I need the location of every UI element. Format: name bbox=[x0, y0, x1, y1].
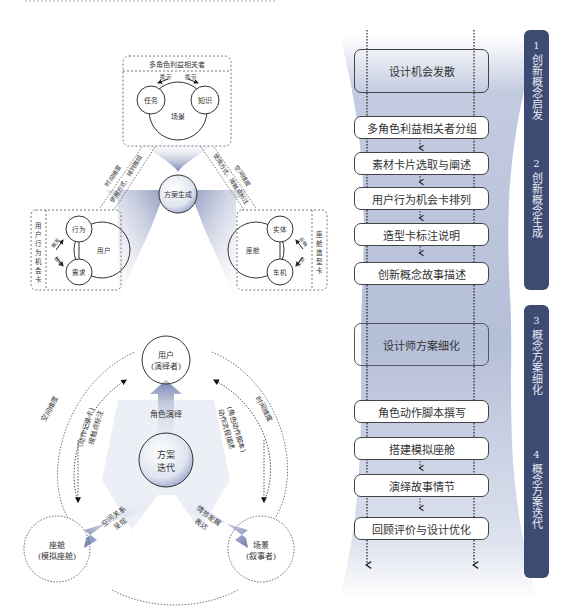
funnel-down bbox=[135, 140, 221, 172]
funnel-right bbox=[190, 190, 248, 300]
scheme-generation-label: 方案生成 bbox=[164, 190, 192, 199]
node-cabin-role: (模拟座舱) bbox=[38, 551, 76, 561]
step-action-script-writing: 角色动作脚本撰写 bbox=[354, 400, 489, 423]
stage-designer-refinement: 设计师方案细化 bbox=[354, 323, 489, 366]
phase-2-label: 创新概念生成 bbox=[529, 172, 544, 238]
label-role-play: 角色演绎 bbox=[150, 409, 182, 419]
arrow-label-feedback: 反馈 bbox=[295, 256, 306, 268]
phase-bar-3-4: 3 概念方案细化 4 概念方案迭代 bbox=[524, 305, 549, 578]
step-perform-story: 演绎故事情节 bbox=[354, 474, 489, 497]
step-shape-card-annotation: 造型卡标注说明 bbox=[354, 223, 489, 246]
phase-1-label: 创新概念启发 bbox=[529, 54, 544, 120]
node-cabin-label: 座舱 bbox=[49, 540, 65, 550]
node-scheme-iteration bbox=[139, 433, 193, 487]
phase-2-number: 2 bbox=[524, 156, 549, 171]
arrow-label-reflect: 反映 bbox=[297, 236, 308, 248]
node-scene-role: (叙事者) bbox=[246, 551, 276, 561]
step-concept-story-description: 创新概念故事描述 bbox=[354, 262, 489, 285]
node-user-label: 用户 bbox=[158, 350, 174, 360]
phase-3-label: 概念方案细化 bbox=[529, 329, 544, 395]
phase-bar-1-2: 1 创新概念启发 2 创新概念生成 bbox=[524, 30, 549, 290]
circle-knowledge: 知识 bbox=[198, 96, 212, 105]
circle-scene: 场景 bbox=[171, 112, 185, 121]
circle-task: 任务 bbox=[144, 96, 158, 105]
step-user-behavior-card-arrange: 用户行为机会卡排列 bbox=[354, 187, 489, 210]
label-time-dimension: 时间维度 bbox=[254, 394, 275, 423]
step-build-mock-cabin: 搭建模拟座舱 bbox=[354, 437, 489, 460]
circle-need: 需求 bbox=[72, 268, 86, 277]
node-user-performer bbox=[142, 336, 190, 384]
center-label-1: 方案 bbox=[157, 449, 175, 460]
circle-infotainment: 车机 bbox=[273, 268, 287, 277]
node-user-role: (演绎者) bbox=[151, 361, 181, 371]
circle-user: 用户 bbox=[97, 246, 111, 255]
step-stakeholder-grouping: 多角色利益相关者分组 bbox=[354, 116, 489, 139]
phase-4-label: 概念方案迭代 bbox=[529, 463, 544, 529]
user-behavior-card-title: 用户行为机会卡 bbox=[35, 222, 42, 284]
stage-design-opportunity-divergence: 设计机会发散 bbox=[354, 49, 489, 93]
step-review-optimize: 回顾评价与设计优化 bbox=[354, 517, 489, 540]
diagram-scheme-iteration: 用户 (演绎者) 座舱 (模拟座舱) 场景 (叙事者) 方案 迭代 角色演绎 空… bbox=[0, 320, 330, 608]
diagram-scheme-generation: 多角色利益相关者 任务 知识 场景 携带 携带 方案生成 时间维度 使用方式、排… bbox=[0, 0, 330, 320]
circle-cabin: 座舱 bbox=[246, 246, 260, 255]
cabin-shape-card-title: 座舱造型卡 bbox=[316, 230, 323, 275]
stakeholder-title: 多角色利益相关者 bbox=[149, 60, 205, 69]
node-scene-label: 场景 bbox=[253, 541, 269, 550]
arrow-label-trigger: 触发 bbox=[50, 237, 61, 249]
circle-entity: 实体 bbox=[273, 225, 287, 234]
arrow-label-carry-2: 携带 bbox=[185, 73, 197, 81]
step-material-card-selection: 素材卡片选取与阐述 bbox=[354, 152, 489, 175]
arrow-label-carry-1: 携带 bbox=[160, 73, 172, 81]
phase-3-number: 3 bbox=[524, 313, 549, 328]
funnel-left bbox=[105, 190, 165, 300]
phase-4-number: 4 bbox=[524, 447, 549, 462]
circle-behavior: 行为 bbox=[72, 225, 86, 234]
label-space-dimension: 空间维度 bbox=[39, 394, 60, 423]
center-label-2: 迭代 bbox=[157, 462, 175, 473]
phase-1-number: 1 bbox=[524, 38, 549, 53]
